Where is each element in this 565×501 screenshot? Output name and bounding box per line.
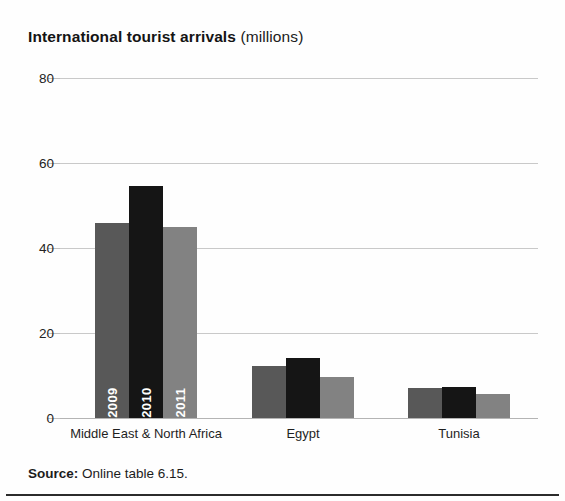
bar-2010-2 [442, 387, 476, 418]
plot-area: 200920102011 [60, 78, 538, 418]
bar-year-label: 2009 [105, 387, 120, 418]
bar-2009-2 [408, 388, 442, 418]
bar-2011-0: 2011 [163, 227, 197, 418]
source-note: Source: Online table 6.15. [28, 466, 188, 481]
gridline-80 [60, 78, 538, 79]
source-label: Source: [28, 466, 78, 481]
figure-container: International tourist arrivals (millions… [0, 0, 565, 501]
y-axis-tick-label: 20 [14, 326, 54, 341]
source-text: Online table 6.15. [82, 466, 188, 481]
gridline-60 [60, 163, 538, 164]
bar-2011-1 [320, 377, 354, 418]
y-axis-tick-label: 80 [14, 71, 54, 86]
x-axis-category-label: Egypt [286, 426, 319, 441]
bar-2009-0: 2009 [95, 223, 129, 419]
y-axis-tick-label: 60 [14, 156, 54, 171]
chart-title-units: (millions) [240, 28, 303, 45]
bar-2010-1 [286, 358, 320, 418]
chart-title-main: International tourist arrivals [28, 28, 236, 45]
bar-2011-2 [476, 394, 510, 418]
y-axis-tick-label: 40 [14, 241, 54, 256]
bar-year-label: 2011 [173, 388, 188, 418]
x-axis-category-label: Middle East & North Africa [70, 426, 222, 441]
bar-year-label: 2010 [139, 387, 154, 418]
gridline-0 [60, 418, 538, 419]
bar-2010-0: 2010 [129, 186, 163, 418]
page-title: International tourist arrivals (millions… [28, 28, 303, 46]
bottom-divider [6, 494, 559, 496]
y-axis-tick-label: 0 [14, 411, 54, 426]
bar-2009-1 [252, 366, 286, 418]
x-axis-category-label: Tunisia [438, 426, 479, 441]
